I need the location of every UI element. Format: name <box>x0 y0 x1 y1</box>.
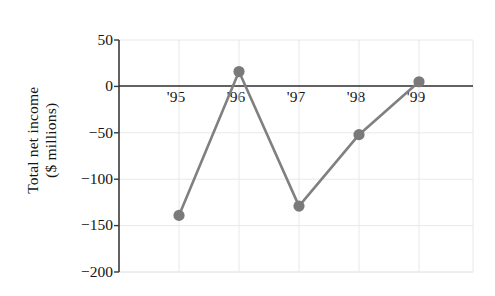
data-point-marker <box>233 66 244 77</box>
plot-area <box>0 0 495 296</box>
horizontal-grid-lines <box>119 40 473 272</box>
grid-lines <box>119 40 473 272</box>
vertical-grid-lines <box>179 40 419 272</box>
data-point-marker <box>353 129 364 140</box>
data-point-marker <box>293 201 304 212</box>
data-point-marker <box>173 210 184 221</box>
chart-figure: Total net income ($ millions) 50 0 −50 −… <box>0 0 495 296</box>
data-point-marker <box>413 76 424 87</box>
